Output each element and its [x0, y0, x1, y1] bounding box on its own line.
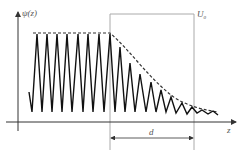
axes [6, 12, 236, 131]
y-axis-label: ψ(z) [22, 8, 37, 18]
barrier-label: U0 [197, 9, 207, 20]
tunneling-diagram: ψ(z) z U0 d [0, 0, 250, 157]
x-axis-label: z [226, 125, 231, 135]
barrier-width-label: d [149, 127, 154, 137]
